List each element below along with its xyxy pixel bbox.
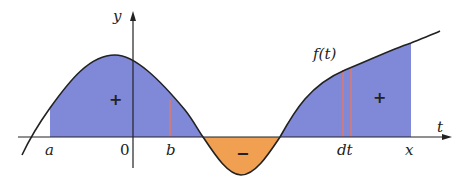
positive-region-right	[280, 43, 411, 137]
curve-label: f(t)	[313, 47, 336, 62]
y-axis-arrow-icon	[130, 11, 136, 21]
minus-sign: −	[236, 146, 249, 162]
x-label: x	[405, 143, 413, 158]
y-axis-label: y	[113, 9, 121, 24]
t-axis-label: t	[437, 120, 443, 135]
positive-region-left	[50, 55, 203, 137]
a-label: a	[45, 143, 54, 158]
plus-sign-right: +	[373, 90, 386, 106]
b-label: b	[166, 143, 176, 158]
origin-label: 0	[120, 143, 130, 158]
dt-label: dt	[337, 143, 353, 158]
t-axis-arrow-icon	[442, 134, 452, 140]
plus-sign-left: +	[109, 92, 122, 108]
